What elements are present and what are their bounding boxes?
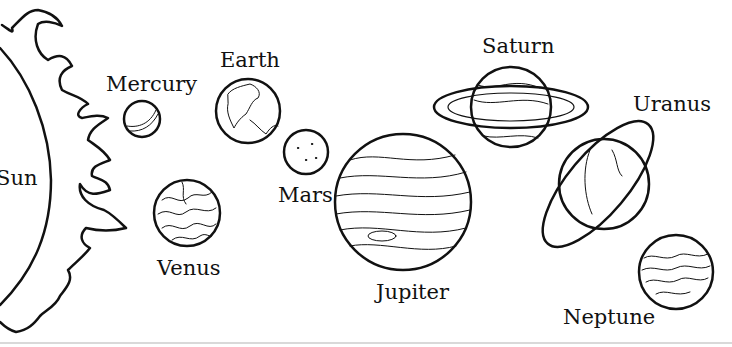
mars-label: Mars <box>278 185 333 206</box>
jupiter-label: Jupiter <box>376 282 449 303</box>
bottom-divider <box>0 342 732 344</box>
earth-icon <box>216 79 280 143</box>
earth-label: Earth <box>220 50 280 71</box>
uranus-icon <box>525 105 671 263</box>
uranus-label: Uranus <box>633 94 711 115</box>
jupiter-icon <box>335 134 471 270</box>
planet-drawings <box>0 0 732 347</box>
neptune-icon <box>639 235 713 309</box>
saturn-icon <box>434 67 588 147</box>
venus-icon <box>154 180 220 246</box>
mercury-icon <box>124 101 160 137</box>
sun-label: Sun <box>0 168 37 189</box>
venus-label: Venus <box>157 258 221 279</box>
saturn-label: Saturn <box>482 36 554 57</box>
solar-system-diagram: Sun Mercury Venus Earth Mars Jupiter Sat… <box>0 0 732 347</box>
mercury-label: Mercury <box>106 74 197 95</box>
neptune-label: Neptune <box>563 307 655 328</box>
mars-icon <box>284 130 328 174</box>
